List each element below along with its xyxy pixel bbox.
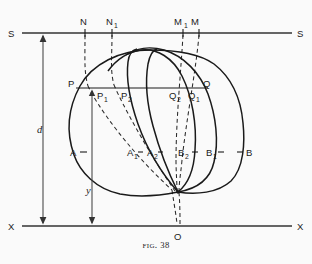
svg-text:Q: Q xyxy=(169,90,176,101)
svg-text:1: 1 xyxy=(104,96,108,103)
point-label-P2: P 2 xyxy=(121,90,132,103)
point-label-A2: A 2 xyxy=(147,147,158,160)
svg-text:B: B xyxy=(178,147,184,158)
label-x-right: X xyxy=(297,221,304,232)
svg-text:Q: Q xyxy=(188,90,195,101)
s-s-reference-line: S S xyxy=(8,28,303,39)
svg-text:2: 2 xyxy=(128,96,132,103)
curve-a1 xyxy=(127,49,178,192)
svg-text:A: A xyxy=(147,147,154,158)
outer-curve xyxy=(69,50,244,196)
svg-text:1: 1 xyxy=(184,22,188,29)
point-label-M: M xyxy=(191,16,199,27)
figure-caption-label: Fig. xyxy=(142,240,157,250)
label-x-left: X xyxy=(8,221,15,232)
svg-text:1: 1 xyxy=(134,153,138,160)
dimension-y xyxy=(89,90,95,225)
svg-text:2: 2 xyxy=(185,153,189,160)
point-label-N1: N 1 xyxy=(106,16,118,29)
point-label-M1: M 1 xyxy=(174,16,188,29)
point-label-B1: B 1 xyxy=(206,147,217,160)
point-label-P: P xyxy=(68,78,74,89)
projector-right-to-o xyxy=(179,192,180,224)
svg-text:A: A xyxy=(127,147,134,158)
svg-text:M: M xyxy=(174,16,182,27)
label-s-right: S xyxy=(297,28,303,39)
figure-caption-number: 38 xyxy=(160,240,169,250)
point-label-A1: A 1 xyxy=(127,147,138,160)
point-label-B: B xyxy=(246,147,252,158)
figure-caption: Fig. 38 xyxy=(0,240,312,250)
svg-text:1: 1 xyxy=(213,153,217,160)
svg-text:N: N xyxy=(106,16,113,27)
point-label-P1: P 1 xyxy=(97,90,108,103)
svg-text:A: A xyxy=(70,147,77,158)
dimension-label-d: d xyxy=(37,124,43,135)
dimension-label-y: y xyxy=(85,185,91,196)
convergence-node xyxy=(176,190,180,194)
projector-n1-upper xyxy=(112,35,115,85)
projector-left-to-o xyxy=(172,190,177,224)
figure-diagram: S S X X xyxy=(0,0,312,264)
svg-text:N: N xyxy=(80,16,87,27)
point-label-B2: B 2 xyxy=(178,147,189,160)
svg-text:B: B xyxy=(206,147,212,158)
projector-m-lower xyxy=(179,160,182,192)
point-label-A: A xyxy=(70,147,77,158)
label-s-left: S xyxy=(8,28,14,39)
svg-text:Q: Q xyxy=(203,78,210,89)
svg-text:2: 2 xyxy=(154,153,158,160)
point-label-Q: Q xyxy=(203,78,210,89)
svg-text:2: 2 xyxy=(177,96,181,103)
svg-text:1: 1 xyxy=(196,96,200,103)
curve-b1 xyxy=(126,48,216,192)
svg-text:P: P xyxy=(97,90,103,101)
svg-text:P: P xyxy=(68,78,74,89)
svg-text:B: B xyxy=(246,147,252,158)
x-x-reference-line: X X xyxy=(8,221,304,232)
point-label-N: N xyxy=(80,16,87,27)
figure-container: S S X X xyxy=(0,0,312,264)
svg-text:M: M xyxy=(191,16,199,27)
svg-text:P: P xyxy=(121,90,127,101)
svg-text:1: 1 xyxy=(114,22,118,29)
